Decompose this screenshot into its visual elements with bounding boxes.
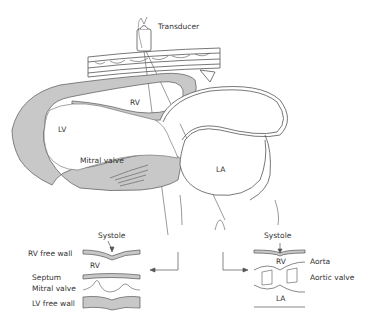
- left-mmode-mitral-valve: Mitral valve: [32, 285, 76, 293]
- left-mmode-lv-free-wall: LV free wall: [32, 300, 75, 308]
- transducer-icon: [137, 17, 151, 51]
- left-mmode-systole: Systole: [98, 232, 125, 240]
- left-mmode-rv: RV: [90, 262, 100, 270]
- label-rv: RV: [130, 99, 140, 107]
- label-mitral-valve: Mitral valve: [80, 157, 124, 165]
- left-mmode-rv-free-wall: RV free wall: [28, 250, 72, 258]
- right-mmode-aortic-valve: Aortic valve: [310, 274, 354, 282]
- right-mmode-rv: RV: [276, 258, 286, 266]
- right-mmode-systole: Systole: [264, 232, 291, 240]
- right-mmode-la: LA: [276, 295, 285, 303]
- right-mmode-aorta: Aorta: [310, 258, 330, 266]
- label-la: LA: [216, 166, 225, 174]
- atrium-vessels: [160, 70, 288, 200]
- vessel-line-right: [275, 200, 279, 225]
- label-transducer: Transducer: [158, 23, 199, 31]
- chest-wall: [88, 48, 220, 77]
- vessel-stub: [215, 220, 225, 230]
- left-mmode-septum: Septum: [32, 274, 61, 282]
- arrow-left: [150, 252, 178, 272]
- arrow-right: [223, 252, 248, 272]
- label-lv: LV: [58, 126, 67, 134]
- vessel-line: [180, 195, 182, 225]
- left-mmode-trace: [83, 241, 140, 310]
